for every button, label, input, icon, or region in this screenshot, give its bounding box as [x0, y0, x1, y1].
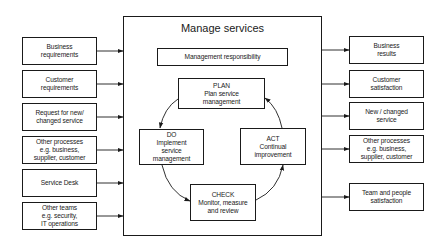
input-customer-requirements: Customer requirements — [22, 70, 97, 98]
output-new-changed-service: New / changed service — [349, 102, 424, 130]
input-service-desk: Service Desk — [22, 169, 97, 197]
output-team-people-satisfaction: Team and people satisfaction — [349, 183, 424, 211]
input-business-requirements: Business requirements — [22, 37, 97, 65]
output-customer-satisfaction: Customer satisfaction — [349, 70, 424, 98]
output-other-processes: Other processes e.g. business, supplier,… — [349, 135, 424, 163]
input-other-teams: Other teams e.g. security, IT operations — [22, 202, 97, 230]
input-request-new-changed-service: Request for new/ changed service — [22, 103, 97, 131]
check-box: CHECK Monitor, measure and review — [190, 184, 256, 221]
input-other-processes: Other processes e.g. business, supplier,… — [22, 136, 97, 164]
act-box: ACT Continual improvement — [240, 128, 306, 165]
plan-box: PLAN Plan service management — [178, 78, 265, 109]
output-business-results: Business results — [349, 36, 424, 64]
manage-services-title: Manage services — [123, 22, 322, 35]
management-responsibility-box: Management responsibility — [157, 48, 288, 66]
do-box: DO Implement service management — [139, 129, 204, 165]
